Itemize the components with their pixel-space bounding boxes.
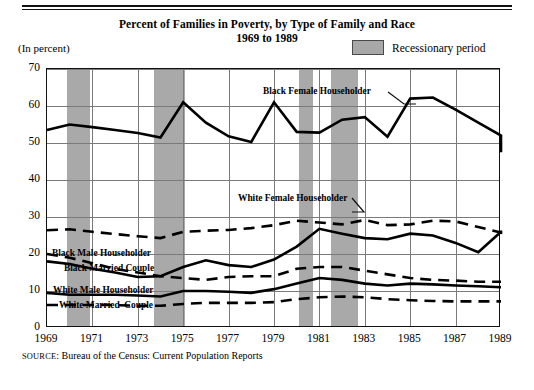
source-note: SOURCE: Bureau of the Census: Current Po… bbox=[22, 350, 263, 361]
x-tick-label: 1989 bbox=[480, 332, 520, 344]
chart-page: Percent of Families in Poverty, by Type … bbox=[0, 0, 534, 390]
x-tick-label: 1969 bbox=[26, 332, 66, 344]
x-tick-label: 1973 bbox=[117, 332, 157, 344]
annotation-black-male-householder: Black Male Householder bbox=[52, 248, 151, 258]
legend: Recessionary period bbox=[352, 40, 486, 55]
x-tick-label: 1981 bbox=[298, 332, 338, 344]
annotation-white-female-householder: White Female Householder bbox=[238, 193, 347, 203]
source-prefix: SOURCE bbox=[22, 352, 56, 361]
chart-title-line1: Percent of Families in Poverty, by Type … bbox=[0, 18, 534, 30]
x-tick-label: 1975 bbox=[162, 332, 202, 344]
y-tick-label: 70 bbox=[14, 61, 40, 73]
x-tick-label: 1985 bbox=[389, 332, 429, 344]
x-tick-label: 1983 bbox=[344, 332, 384, 344]
x-tick-label: 1971 bbox=[71, 332, 111, 344]
annotation-white-married-couple: White Married–Couple bbox=[59, 300, 153, 310]
annotation-white-male-householder: White Male Householder bbox=[53, 285, 154, 295]
x-axis-labels: 1969197119731975197719791981198319851987… bbox=[46, 332, 500, 348]
y-tick-label: 30 bbox=[14, 209, 40, 221]
unit-note: (In percent) bbox=[18, 42, 70, 54]
recession-swatch-icon bbox=[352, 40, 384, 55]
y-tick-label: 10 bbox=[14, 283, 40, 295]
y-tick-label: 0 bbox=[14, 320, 40, 332]
legend-recession-label: Recessionary period bbox=[392, 42, 486, 54]
top-rule bbox=[22, 5, 512, 10]
y-axis-labels: 010203040506070 bbox=[12, 68, 40, 327]
y-tick-label: 50 bbox=[14, 135, 40, 147]
x-tick-label: 1987 bbox=[435, 332, 475, 344]
y-tick-label: 60 bbox=[14, 98, 40, 110]
annotation-black-female-householder: Black Female Householder bbox=[263, 86, 371, 96]
y-tick-label: 20 bbox=[14, 246, 40, 258]
source-text: : Bureau of the Census: Current Populati… bbox=[56, 350, 262, 361]
y-tick-label: 40 bbox=[14, 172, 40, 184]
x-tick-label: 1979 bbox=[253, 332, 293, 344]
x-tick-label: 1977 bbox=[208, 332, 248, 344]
series-line bbox=[47, 97, 501, 152]
annotation-black-married-couple: Black Married Couple bbox=[64, 263, 154, 273]
